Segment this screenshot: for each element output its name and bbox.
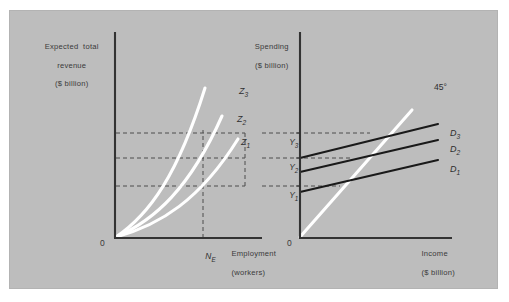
z-curve-2-sub: 2 (243, 119, 247, 126)
z-curves (116, 88, 238, 237)
right-y-axis-label-line2: ($ billion) (255, 61, 289, 70)
z-curve-1-label: Z1 (231, 127, 250, 159)
forty-five-degree-line (300, 110, 412, 237)
left-x-tick-label: NE (196, 241, 216, 273)
figure-root: Expected total revenue ($ billion) 0 NE … (0, 0, 509, 302)
right-y-tick-1-sub: 1 (295, 195, 299, 202)
left-x-axis-label-line2: (workers) (231, 268, 265, 277)
z-curve-3 (116, 88, 205, 237)
right-y-tick-2-sub: 2 (295, 167, 299, 174)
left-x-axis-label: Employment (workers) (222, 240, 292, 286)
z-curve-1-sub: 1 (247, 142, 251, 149)
right-y-axis-label: Spending ($ billion) (238, 33, 296, 79)
left-y-axis-label-line3: ($ billion) (55, 79, 89, 88)
d-line-2 (300, 140, 438, 172)
left-x-tick-sub: E (211, 256, 215, 263)
right-y-tick-1-label: Y1 (280, 180, 298, 212)
right-x-axis-label-line2: ($ billion) (421, 268, 455, 277)
left-y-axis-label: Expected total revenue ($ billion) (24, 33, 110, 97)
left-origin-label: 0 (100, 238, 105, 248)
forty-five-degree-label: 45° (434, 82, 447, 92)
right-y-tick-3-sub: 3 (295, 142, 299, 149)
d-line-3 (300, 124, 438, 158)
d-line-1-label: D1 (440, 154, 460, 186)
left-x-axis-label-line1: Employment (231, 249, 276, 258)
z-curve-3-sub: 3 (245, 91, 249, 98)
right-origin-label: 0 (287, 238, 292, 248)
right-x-axis-label-line1: Income (421, 249, 447, 258)
right-axes (299, 32, 452, 238)
d-line-1-sub: 1 (457, 169, 461, 176)
d-line-1 (300, 160, 438, 192)
left-y-axis-label-line1: Expected total (45, 42, 99, 51)
right-y-axis-label-line1: Spending (255, 42, 289, 51)
right-y-tick-2-label: Y2 (280, 152, 298, 184)
right-x-axis-label: Income ($ billion) (412, 240, 474, 286)
left-y-axis-label-line2: revenue (57, 61, 86, 70)
